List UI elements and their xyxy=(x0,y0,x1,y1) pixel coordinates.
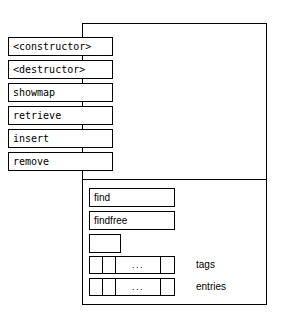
array-cell xyxy=(103,257,116,273)
array-row-tags[interactable]: ... xyxy=(89,256,175,274)
array-label-entries: entries xyxy=(196,278,226,296)
method-box-retrieve[interactable]: retrieve xyxy=(8,106,113,125)
array-cell-ellipsis: ... xyxy=(116,257,161,273)
method-box-remove[interactable]: remove xyxy=(8,152,113,171)
method-box-constructor[interactable]: <constructor> xyxy=(8,37,113,56)
member-box-find[interactable]: find xyxy=(89,188,175,207)
method-box-insert[interactable]: insert xyxy=(8,129,113,148)
class-section-divider xyxy=(82,179,267,180)
array-cell-ellipsis: ... xyxy=(116,279,161,295)
member-box-empty-slot[interactable] xyxy=(89,234,121,253)
method-box-showmap[interactable]: showmap xyxy=(8,83,113,102)
array-row-entries[interactable]: ... xyxy=(89,278,175,296)
class-structure-diagram: <constructor> <destructor> showmap retri… xyxy=(0,0,282,321)
method-box-destructor[interactable]: <destructor> xyxy=(8,60,113,79)
array-cell xyxy=(161,257,174,273)
array-cell xyxy=(161,279,174,295)
array-cell xyxy=(90,279,103,295)
array-cell xyxy=(103,279,116,295)
member-box-findfree[interactable]: findfree xyxy=(89,211,175,230)
array-cell xyxy=(90,257,103,273)
array-label-tags: tags xyxy=(196,256,215,274)
